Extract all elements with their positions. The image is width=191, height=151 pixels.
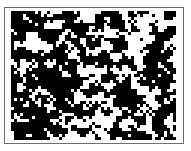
image-frame <box>4 7 184 144</box>
blob-texture <box>11 11 178 141</box>
